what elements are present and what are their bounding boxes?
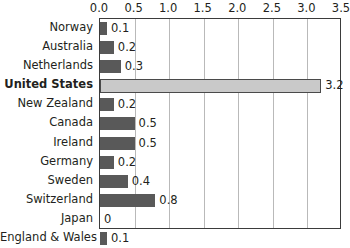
bar-row: 0.8 xyxy=(100,191,340,210)
bar-value-label: 0.1 xyxy=(111,21,129,36)
bar-value-label: 0.3 xyxy=(125,59,143,74)
bar-row: 0 xyxy=(100,210,340,229)
x-tick-label: 3.5 xyxy=(332,2,350,15)
bar xyxy=(100,22,107,35)
bar-value-label: 0.4 xyxy=(132,174,150,189)
bar xyxy=(100,117,135,130)
x-tick-label: 1.0 xyxy=(159,2,177,15)
bar-row: 0.2 xyxy=(100,38,340,57)
bar-value-label: 0.2 xyxy=(118,155,136,170)
x-tick-label: 1.5 xyxy=(194,2,212,15)
category-label: New Zealand xyxy=(0,94,96,113)
x-tick-label: 3.0 xyxy=(297,2,315,15)
bars-layer: 0.10.20.33.20.20.50.50.20.40.800.1 xyxy=(100,19,340,228)
x-tick-label: 0.0 xyxy=(90,2,108,15)
bar-value-label: 0.2 xyxy=(118,97,136,112)
bar-value-label: 0.1 xyxy=(111,231,129,246)
category-axis-labels: NorwayAustraliaNetherlandsUnited StatesN… xyxy=(0,18,96,247)
bar-row: 0.5 xyxy=(100,134,340,153)
category-label: Norway xyxy=(0,18,96,37)
category-label: Germany xyxy=(0,152,96,171)
x-tick-label: 2.0 xyxy=(228,2,246,15)
bar xyxy=(100,79,321,93)
category-label: Japan xyxy=(0,209,96,228)
bar-row: 0.2 xyxy=(100,153,340,172)
bar xyxy=(100,98,114,111)
category-label: Sweden xyxy=(0,171,96,190)
x-axis-tick-labels: 0.00.51.01.52.02.53.03.5 xyxy=(0,0,344,18)
bar-row: 0.2 xyxy=(100,95,340,114)
bar-value-label: 0 xyxy=(104,212,111,227)
category-label: Ireland xyxy=(0,133,96,152)
category-label: Canada xyxy=(0,113,96,132)
bar-row: 0.4 xyxy=(100,172,340,191)
bar xyxy=(100,156,114,169)
bar xyxy=(100,232,107,245)
bar-row: 3.2 xyxy=(100,76,340,95)
bar-value-label: 0.5 xyxy=(139,116,157,131)
category-label: England & Wales xyxy=(0,228,96,247)
bar-value-label: 3.2 xyxy=(325,78,343,93)
category-label: Switzerland xyxy=(0,190,96,209)
bar-value-label: 0.8 xyxy=(159,193,177,208)
bar-row: 0.5 xyxy=(100,114,340,133)
bar-row: 0.1 xyxy=(100,229,340,248)
bar xyxy=(100,137,135,150)
bar-value-label: 0.2 xyxy=(118,40,136,55)
bar xyxy=(100,41,114,54)
category-label: United States xyxy=(0,75,96,94)
x-tick-label: 2.5 xyxy=(263,2,281,15)
bar xyxy=(100,60,121,73)
bar-value-label: 0.5 xyxy=(139,136,157,151)
bar xyxy=(100,194,155,207)
category-label: Netherlands xyxy=(0,56,96,75)
bar xyxy=(100,175,128,188)
plot-area: 0.10.20.33.20.20.50.50.20.40.800.1 xyxy=(99,18,341,229)
x-tick-label: 0.5 xyxy=(124,2,142,15)
category-label: Australia xyxy=(0,37,96,56)
bar-row: 0.1 xyxy=(100,19,340,38)
bar-row: 0.3 xyxy=(100,57,340,76)
